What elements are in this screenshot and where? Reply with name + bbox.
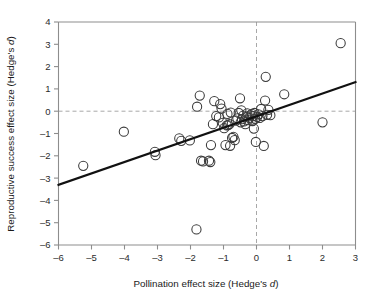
y-tick-label: 3 — [45, 39, 50, 50]
y-axis-title: Reproductive success effect size (Hedge'… — [5, 36, 16, 232]
x-tick-label: –2 — [185, 252, 196, 263]
y-tick-label: 4 — [45, 16, 50, 27]
axis-title-text-end: ) — [275, 278, 278, 289]
y-tick-label: –1 — [40, 128, 51, 139]
y-tick-label: 0 — [45, 106, 50, 117]
x-tick-label: 2 — [320, 252, 325, 263]
x-tick-label: –3 — [152, 252, 163, 263]
x-axis-title: Pollination effect size (Hedge's d) — [134, 278, 279, 289]
y-tick-label: –3 — [40, 173, 51, 184]
y-tick-label: –4 — [40, 195, 51, 206]
chart-canvas: –6–5–4–3–2–10123 –6–5–4–3–2–101234 Polli… — [0, 0, 372, 297]
y-tick-label: 2 — [45, 61, 50, 72]
axis-title-text: Pollination effect size (Hedge's — [134, 278, 270, 289]
y-tick-label: –5 — [40, 217, 51, 228]
axis-title-text: Reproductive success effect size (Hedge'… — [5, 45, 16, 232]
scatter-plot-figure: –6–5–4–3–2–10123 –6–5–4–3–2–101234 Polli… — [0, 0, 372, 297]
x-tick-label: –1 — [218, 252, 229, 263]
x-tick-label: 0 — [254, 252, 259, 263]
axis-title-text-end: ) — [5, 36, 16, 39]
x-tick-label: –6 — [53, 252, 64, 263]
y-tick-label: –6 — [40, 239, 51, 250]
y-tick-label: –2 — [40, 150, 51, 161]
y-tick-label: 1 — [45, 83, 50, 94]
x-tick-label: 3 — [353, 252, 358, 263]
x-tick-label: 1 — [287, 252, 292, 263]
x-tick-label: –4 — [119, 252, 130, 263]
x-tick-label: –5 — [86, 252, 97, 263]
